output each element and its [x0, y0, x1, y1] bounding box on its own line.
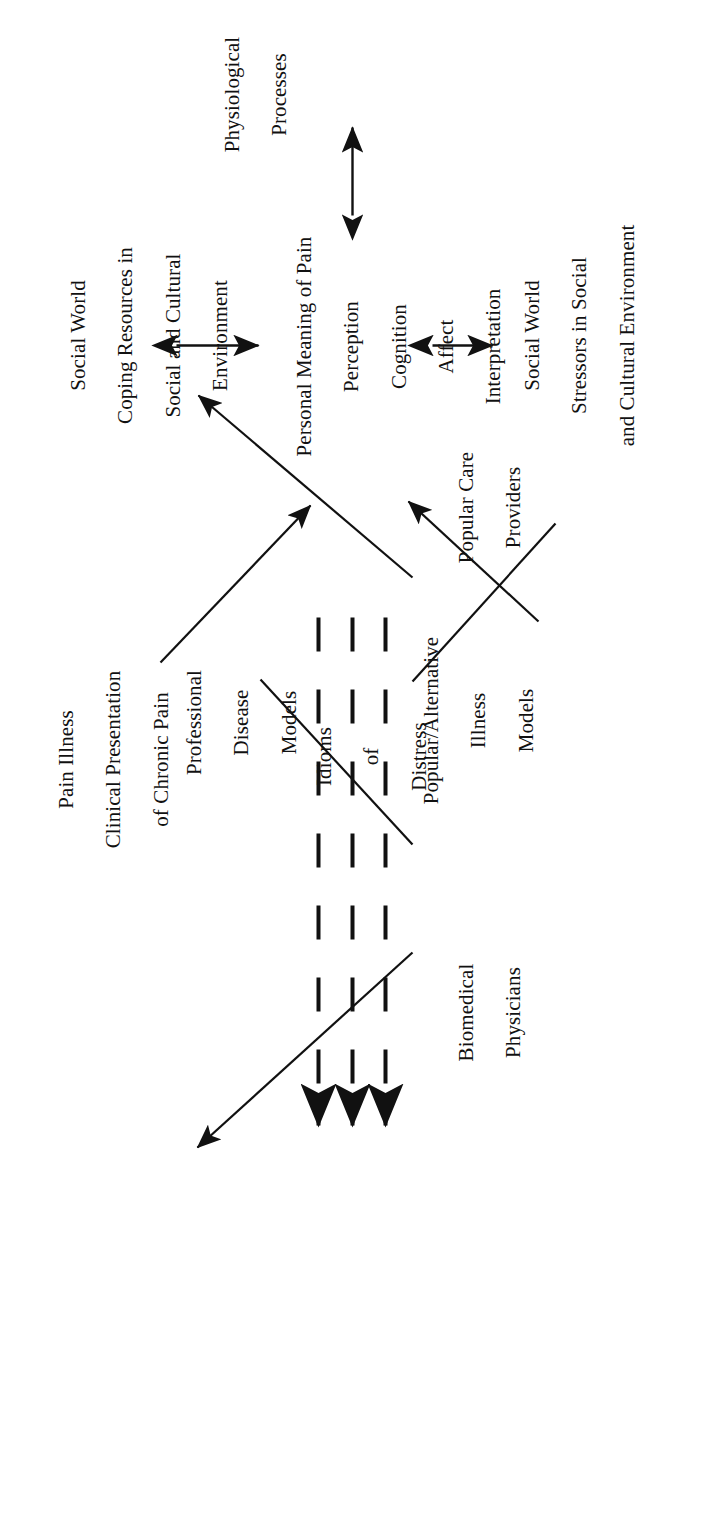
node-pain-illness-line-1: Pain Illness — [54, 579, 78, 939]
node-professional-disease-models-line-2: Disease — [229, 607, 253, 837]
node-personal-meaning-of-pain-line-1: Personal Meaning of Pain — [292, 201, 316, 491]
node-pain-illness-line-2: Clinical Presentation — [101, 579, 125, 939]
node-social-world-coping-resources-line-3: Social and Cultural — [161, 185, 185, 485]
diagram-canvas: Pain Illness Clinical Presentation of Ch… — [0, 0, 703, 1527]
node-personal-meaning-of-pain-line-4: Affect — [434, 201, 458, 491]
node-social-world-stressors-line-3: and Cultural Environment — [615, 185, 639, 485]
node-physiological-processes-line-1: Physiological — [220, 0, 244, 209]
node-physiological-processes: Physiological Processes — [196, 0, 315, 209]
node-social-world-stressors: Social World Stressors in Social and Cul… — [496, 185, 662, 485]
node-idioms-of-distress-line-3: Distress — [407, 691, 431, 821]
node-personal-meaning-of-pain-line-2: Perception — [339, 201, 363, 491]
node-social-world-coping-resources: Social World Coping Resources in Social … — [42, 185, 255, 485]
node-idioms-of-distress-line-1: Idioms — [312, 691, 336, 821]
node-social-world-coping-resources-line-2: Coping Resources in — [113, 185, 137, 485]
node-personal-meaning-of-pain: Personal Meaning of Pain Perception Cogn… — [268, 201, 529, 491]
node-social-world-stressors-line-1: Social World — [520, 185, 544, 485]
node-idioms-of-distress-line-2: of — [359, 691, 383, 821]
node-idioms-of-distress: Idioms of Distress — [288, 691, 454, 821]
node-physiological-processes-line-2: Processes — [267, 0, 291, 209]
node-biomedical-physicians: Biomedical Physicians — [430, 897, 549, 1127]
node-professional-disease-models-line-1: Professional — [182, 607, 206, 837]
edge-biomedical-to-pain-illness — [197, 952, 412, 1147]
node-personal-meaning-of-pain-line-3: Cognition — [387, 201, 411, 491]
diagram-figure: Pain Illness Clinical Presentation of Ch… — [0, 0, 703, 1527]
node-social-world-coping-resources-line-1: Social World — [66, 185, 90, 485]
node-biomedical-physicians-line-2: Physicians — [501, 897, 525, 1127]
node-social-world-coping-resources-line-4: Environment — [208, 185, 232, 485]
node-popular-alternative-illness-models-line-2: Illness — [466, 585, 490, 855]
node-popular-alternative-illness-models-line-3: Models — [514, 585, 538, 855]
node-biomedical-physicians-line-1: Biomedical — [454, 897, 478, 1127]
node-social-world-stressors-line-2: Stressors in Social — [567, 185, 591, 485]
